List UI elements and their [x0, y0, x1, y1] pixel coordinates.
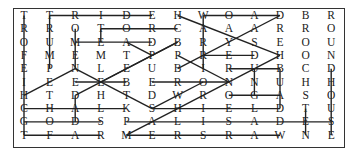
- letter-cell[interactable]: G: [17, 115, 31, 128]
- letter-cell[interactable]: A: [222, 22, 236, 35]
- letter-cell[interactable]: S: [299, 89, 313, 102]
- letter-cell[interactable]: Y: [222, 36, 236, 49]
- letter-cell[interactable]: M: [119, 129, 133, 142]
- letter-cell[interactable]: A: [247, 129, 261, 142]
- letter-cell[interactable]: E: [94, 36, 108, 49]
- letter-cell[interactable]: U: [273, 76, 287, 89]
- letter-cell[interactable]: K: [119, 102, 133, 115]
- letter-cell[interactable]: O: [222, 9, 236, 22]
- letter-cell[interactable]: T: [94, 22, 108, 35]
- letter-cell[interactable]: D: [247, 49, 261, 62]
- letter-cell[interactable]: H: [273, 49, 287, 62]
- letter-cell[interactable]: M: [68, 36, 82, 49]
- letter-cell[interactable]: D: [273, 115, 287, 128]
- letter-cell[interactable]: T: [43, 89, 57, 102]
- letter-cell[interactable]: A: [145, 115, 159, 128]
- letter-cell[interactable]: H: [324, 76, 338, 89]
- letter-cell[interactable]: E: [145, 129, 159, 142]
- letter-cell[interactable]: A: [247, 22, 261, 35]
- letter-cell[interactable]: R: [171, 129, 185, 142]
- letter-cell[interactable]: R: [68, 9, 82, 22]
- letter-cell[interactable]: T: [17, 9, 31, 22]
- letter-cell[interactable]: O: [119, 22, 133, 35]
- letter-cell[interactable]: P: [145, 49, 159, 62]
- letter-cell[interactable]: W: [273, 129, 287, 142]
- letter-cell[interactable]: S: [324, 115, 338, 128]
- letter-cell[interactable]: B: [171, 36, 185, 49]
- letter-cell[interactable]: R: [299, 22, 313, 35]
- letter-cell[interactable]: R: [196, 89, 210, 102]
- letter-cell[interactable]: R: [196, 36, 210, 49]
- letter-cell[interactable]: A: [119, 36, 133, 49]
- letter-cell[interactable]: U: [145, 62, 159, 75]
- letter-cell[interactable]: L: [94, 62, 108, 75]
- letter-cell[interactable]: P: [119, 115, 133, 128]
- letter-cell[interactable]: E: [145, 76, 159, 89]
- letter-cell[interactable]: C: [17, 102, 31, 115]
- letter-cell[interactable]: R: [145, 22, 159, 35]
- letter-cell[interactable]: C: [171, 22, 185, 35]
- letter-cell[interactable]: U: [324, 36, 338, 49]
- letter-cell[interactable]: G: [247, 89, 261, 102]
- letter-cell[interactable]: M: [94, 49, 108, 62]
- letter-cell[interactable]: E: [222, 102, 236, 115]
- letter-cell[interactable]: D: [273, 102, 287, 115]
- letter-cell[interactable]: E: [68, 76, 82, 89]
- letter-cell[interactable]: P: [43, 62, 57, 75]
- letter-cell[interactable]: D: [273, 9, 287, 22]
- letter-cell[interactable]: O: [324, 89, 338, 102]
- letter-cell[interactable]: E: [68, 49, 82, 62]
- letter-cell[interactable]: S: [196, 129, 210, 142]
- letter-cell[interactable]: R: [196, 49, 210, 62]
- letter-cell[interactable]: O: [43, 115, 57, 128]
- letter-cell[interactable]: D: [68, 89, 82, 102]
- letter-cell[interactable]: C: [299, 62, 313, 75]
- letter-cell[interactable]: A: [247, 9, 261, 22]
- letter-cell[interactable]: O: [299, 49, 313, 62]
- letter-cell[interactable]: I: [196, 62, 210, 75]
- letter-cell[interactable]: N: [68, 62, 82, 75]
- letter-cell[interactable]: O: [299, 36, 313, 49]
- letter-cell[interactable]: B: [299, 9, 313, 22]
- letter-cell[interactable]: F: [17, 49, 31, 62]
- letter-cell[interactable]: O: [222, 89, 236, 102]
- letter-cell[interactable]: O: [196, 76, 210, 89]
- letter-cell[interactable]: H: [171, 102, 185, 115]
- letter-cell[interactable]: U: [324, 102, 338, 115]
- letter-cell[interactable]: H: [43, 102, 57, 115]
- letter-cell[interactable]: N: [222, 76, 236, 89]
- letter-cell[interactable]: A: [273, 89, 287, 102]
- letter-cell[interactable]: M: [43, 49, 57, 62]
- letter-cell[interactable]: B: [273, 62, 287, 75]
- letter-cell[interactable]: E: [145, 9, 159, 22]
- letter-cell[interactable]: E: [94, 76, 108, 89]
- letter-cell[interactable]: E: [17, 62, 31, 75]
- letter-cell[interactable]: H: [94, 89, 108, 102]
- letter-cell[interactable]: F: [43, 129, 57, 142]
- letter-cell[interactable]: R: [222, 129, 236, 142]
- letter-cell[interactable]: I: [17, 76, 31, 89]
- letter-cell[interactable]: D: [145, 89, 159, 102]
- letter-cell[interactable]: A: [196, 22, 210, 35]
- letter-cell[interactable]: P: [171, 49, 185, 62]
- letter-cell[interactable]: E: [299, 115, 313, 128]
- letter-cell[interactable]: S: [145, 102, 159, 115]
- letter-cell[interactable]: R: [94, 129, 108, 142]
- letter-cell[interactable]: S: [222, 115, 236, 128]
- letter-cell[interactable]: N: [324, 49, 338, 62]
- letter-cell[interactable]: T: [17, 129, 31, 142]
- letter-cell[interactable]: H: [17, 89, 31, 102]
- letter-cell[interactable]: R: [273, 22, 287, 35]
- letter-cell[interactable]: H: [171, 9, 185, 22]
- letter-cell[interactable]: L: [94, 102, 108, 115]
- letter-cell[interactable]: T: [119, 89, 133, 102]
- letter-cell[interactable]: I: [196, 115, 210, 128]
- letter-cell[interactable]: I: [94, 9, 108, 22]
- letter-cell[interactable]: A: [247, 115, 261, 128]
- letter-cell[interactable]: S: [94, 115, 108, 128]
- letter-cell[interactable]: U: [43, 36, 57, 49]
- letter-cell[interactable]: W: [196, 9, 210, 22]
- letter-cell[interactable]: E: [324, 129, 338, 142]
- letter-cell[interactable]: H: [299, 76, 313, 89]
- letter-cell[interactable]: O: [324, 22, 338, 35]
